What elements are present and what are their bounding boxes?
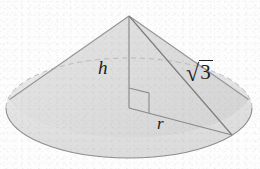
cone-diagram-svg (0, 0, 260, 169)
height-label: h (98, 58, 108, 77)
radicand-value: 3 (199, 60, 213, 83)
radius-label: r (157, 115, 164, 132)
cone-diagram-figure: h r √3 (0, 0, 260, 169)
radical-sign-icon: √ (186, 60, 199, 86)
slant-height-label: √3 (186, 60, 213, 84)
